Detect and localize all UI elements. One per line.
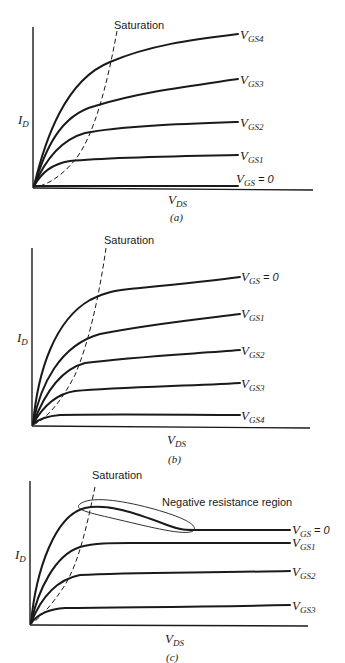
jfet-characteristics-figure: Saturation ID VDS (a) VGS4 VGS3 VGS2 VGS… [0,0,345,663]
curve-vgs0 [33,277,240,424]
curve-label-vgs1: VGS1 [241,306,264,323]
x-axis-label: VDS [167,432,186,449]
curve-label-vgs4: VGS4 [241,408,265,425]
negative-resistance-label: Negative resistance region [162,496,292,508]
panel-caption: (a) [170,211,183,224]
panel-caption: (b) [168,453,181,466]
y-axis-label: ID [17,112,29,129]
saturation-label: Saturation [114,19,164,31]
curve-label-vgs1: VGS1 [240,148,263,165]
curve-label-vgs2: VGS2 [241,343,265,360]
x-axis [32,426,310,428]
curve-vgs3 [33,383,240,424]
panel-c: Saturation Negative resistance region ID… [14,469,330,663]
y-axis-label: ID [14,547,26,564]
saturation-label: Saturation [92,469,142,481]
saturation-label: Saturation [104,234,154,246]
curve-vgs1 [31,543,290,623]
curve-label-vgs3: VGS3 [241,376,265,393]
panel-b: Saturation ID VDS (b) VGS = 0 VGS1 VGS2 … [16,234,310,466]
y-axis-label: ID [16,330,28,347]
curve-label-vgs3: VGS3 [292,598,316,615]
curve-vgs2 [34,122,238,186]
curve-vgs3 [34,79,238,186]
curve-vgs3 [31,605,290,623]
curve-vgs4 [33,415,240,424]
x-axis-label: VDS [168,192,187,209]
curve-label-vgs4: VGS4 [240,27,264,44]
panel-a: Saturation ID VDS (a) VGS4 VGS3 VGS2 VGS… [17,19,313,224]
curve-vgs1 [33,314,240,424]
curve-label-vgs2: VGS2 [292,564,316,581]
x-axis [30,625,308,626]
x-axis [33,188,313,190]
curve-vgs4 [34,34,238,186]
curve-label-vgs0: VGS = 0 [241,269,279,286]
x-axis-label: VDS [165,631,184,648]
curve-vgs2 [31,571,290,623]
panel-caption: (c) [166,651,179,663]
curve-label-vgs3: VGS3 [240,72,264,89]
curve-vgs1 [34,155,238,186]
curve-label-vgs2: VGS2 [240,115,264,132]
curve-label-vgs0: VGS = 0 [236,171,274,188]
